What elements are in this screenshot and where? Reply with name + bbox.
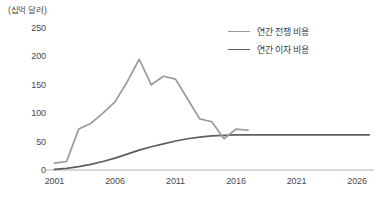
chart-legend: 연간 전쟁 비용 연간 이자 비용 <box>228 22 308 58</box>
x-tick-label: 2021 <box>287 176 307 186</box>
chart-container: (십억 달러) 050100150200250 2001200620112016… <box>0 0 377 205</box>
x-tick-label: 2001 <box>45 176 65 186</box>
x-tick-label: 2026 <box>347 176 367 186</box>
plot-area <box>0 0 377 205</box>
x-tick-label: 2006 <box>105 176 125 186</box>
legend-item-war-cost: 연간 전쟁 비용 <box>228 22 308 40</box>
x-tick-label: 2016 <box>226 176 246 186</box>
legend-swatch-interest-cost <box>228 49 250 50</box>
x-tick-label: 2011 <box>166 176 185 186</box>
legend-label-interest-cost: 연간 이자 비용 <box>257 43 308 56</box>
legend-swatch-war-cost <box>228 31 250 32</box>
legend-item-interest-cost: 연간 이자 비용 <box>228 40 308 58</box>
line-annual-interest-cost <box>54 135 369 170</box>
legend-label-war-cost: 연간 전쟁 비용 <box>257 25 308 38</box>
